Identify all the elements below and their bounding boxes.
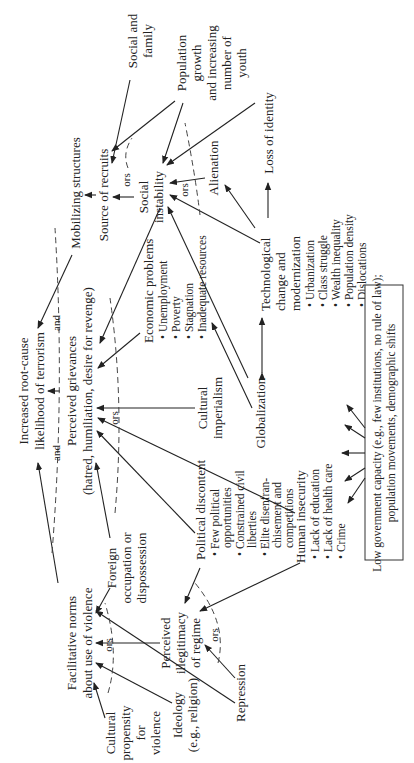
and-label-right: and <box>50 315 62 331</box>
svg-text:occupation or: occupation or <box>119 532 134 604</box>
political-bullet: • Elite disenfran- <box>259 478 271 556</box>
node-foreign-occupation: Foreign occupation or dispossession <box>104 532 149 604</box>
arrow-population-recruits <box>112 101 175 151</box>
econ-bullet: • Inadequate resources <box>196 235 209 339</box>
tech-bullet: • Wealth inequality <box>330 219 343 307</box>
outcome-line1: Increased root-cause <box>16 337 31 444</box>
arrow-foreign-grievances <box>96 463 110 538</box>
econ-bullet: • Unemployment <box>157 260 170 339</box>
svg-text:modernization: modernization <box>288 235 303 311</box>
instability-ors-label: ors <box>178 183 190 196</box>
svg-text:Cultural: Cultural <box>195 386 210 429</box>
svg-text:Facilitative norms: Facilitative norms <box>64 596 79 690</box>
svg-text:and increasing: and increasing <box>204 25 219 101</box>
tech-bullet: • Urbanization <box>304 240 316 307</box>
svg-text:dispossession: dispossession <box>134 532 149 603</box>
node-technological-change: Technological change and modernization •… <box>258 214 368 311</box>
arrow-ideology-facilitative <box>96 663 172 703</box>
svg-text:opportunities: opportunities <box>221 487 234 548</box>
svg-text:chisement and: chisement and <box>271 482 283 548</box>
node-globalization: Globalization <box>253 377 268 448</box>
svg-text:number of: number of <box>219 35 234 89</box>
node-human-insecurity: Human insecurity • Lack of education • L… <box>293 464 347 563</box>
svg-text:about use of violence: about use of violence <box>80 587 95 698</box>
svg-text:Population: Population <box>174 34 189 91</box>
arrow-facilitative-outcome <box>38 463 58 583</box>
outcome-line2: likelihood of terrorism <box>32 332 47 450</box>
human-bullet: • Lack of health care <box>322 464 334 559</box>
svg-text:change and: change and <box>273 252 288 311</box>
svg-text:Social: Social <box>136 180 151 213</box>
svg-text:Political discontent: Political discontent <box>193 460 208 560</box>
svg-text:Social and: Social and <box>125 13 140 68</box>
svg-text:Ideology: Ideology <box>170 691 185 738</box>
svg-text:instability: instability <box>151 171 166 224</box>
svg-text:for: for <box>133 725 148 741</box>
arrow-foreign-facilitative <box>96 588 110 613</box>
node-political-discontent: Political discontent • Few political opp… <box>193 460 296 560</box>
svg-text:Technological: Technological <box>258 237 273 311</box>
arrow-lowgov-5 <box>347 405 365 428</box>
node-perceived-illegitimacy: Perceived illegitimacy of regime <box>158 611 203 674</box>
arrow-globalization-instability <box>168 207 248 378</box>
svg-text:Foreign: Foreign <box>104 547 119 588</box>
and-label-left: and <box>50 445 62 461</box>
political-bullet: • Constrained civil <box>234 470 246 556</box>
svg-text:family: family <box>140 24 155 58</box>
arrow-lowgov-4 <box>345 425 365 438</box>
econ-bullet: • Poverty <box>170 296 183 339</box>
human-bullet: • Lack of education <box>309 469 321 559</box>
node-grievances: Perceived grievances (hatred, humiliatio… <box>64 287 95 495</box>
node-mobilizing-structures: Mobilizing structures <box>68 137 83 249</box>
svg-text:youth: youth <box>234 48 249 78</box>
node-outcome: Increased root-cause likelihood of terro… <box>16 332 47 450</box>
tech-bullet: • Population density <box>343 214 356 307</box>
recruits-ors-label: ors <box>120 173 132 186</box>
node-facilitative-norms: Facilitative norms about use of violence <box>64 587 95 698</box>
node-social-family: Social and family <box>125 13 155 68</box>
arrow-lowgov-2 <box>345 468 365 481</box>
svg-text:Economic problems: Economic problems <box>141 239 156 343</box>
node-cultural-propensity: Cultural propensity for violence <box>103 705 163 760</box>
arrow-propensity-facilitative <box>94 683 105 718</box>
svg-text:Low government capacity (e.g.,: Low government capacity (e.g., few insti… <box>371 274 384 571</box>
instability-ors-arc <box>185 123 200 215</box>
grievances-ors-label: ors <box>108 411 120 424</box>
node-economic-problems: Economic problems • Unemployment • Pover… <box>141 235 209 343</box>
node-low-government-capacity: Low government capacity (e.g., few insti… <box>365 274 403 571</box>
arrow-political-grievances <box>97 431 195 533</box>
svg-text:growth: growth <box>189 44 204 81</box>
arrow-political-illegitimacy <box>185 568 200 603</box>
recruits-ors-arc <box>126 138 132 168</box>
illegitimacy-ors-label: ors <box>208 628 220 641</box>
grievances-line2: (hatred, humiliation, desire for revenge… <box>80 287 95 495</box>
arrow-tech-alienation <box>225 185 255 228</box>
svg-text:Human insecurity: Human insecurity <box>293 470 308 563</box>
node-population-growth: Population growth and increasing number … <box>174 25 249 101</box>
grievances-line1: Perceived grievances <box>64 336 79 446</box>
arrow-alienation-instability <box>170 178 205 183</box>
node-source-of-recruits: Source of recruits <box>96 149 111 241</box>
svg-text:population movements, demograp: population movements, demographic shifts <box>385 323 398 522</box>
svg-text:violence: violence <box>148 711 163 755</box>
diagram-canvas: Increased root-cause likelihood of terro… <box>0 0 414 763</box>
human-bullet: • Crime <box>335 523 347 559</box>
arrow-tech-instability <box>170 195 260 243</box>
tech-bullet: • Class struggle <box>317 235 330 307</box>
node-repression: Repression <box>233 664 248 722</box>
arrow-human-illegitimacy <box>200 563 300 611</box>
svg-text:propensity: propensity <box>118 705 133 760</box>
arrow-economic-grievances <box>98 333 140 368</box>
svg-text:(e.g., religion): (e.g., religion) <box>185 678 200 752</box>
econ-bullet: • Stagnation <box>183 283 196 339</box>
svg-text:liberties: liberties <box>246 510 258 548</box>
node-ideology: Ideology (e.g., religion) <box>170 678 200 752</box>
node-cultural-imperialism: Cultural imperialism <box>195 377 225 439</box>
arrow-population-instability <box>163 103 183 163</box>
arrow-lowgov-1 <box>348 478 365 503</box>
node-alienation: Alienation <box>206 140 221 195</box>
node-loss-of-identity: Loss of identity <box>261 92 276 174</box>
node-social-instability: Social instability <box>136 171 166 224</box>
arrow-family-recruits <box>112 80 130 163</box>
facilitative-ors-label: ors <box>102 638 114 651</box>
